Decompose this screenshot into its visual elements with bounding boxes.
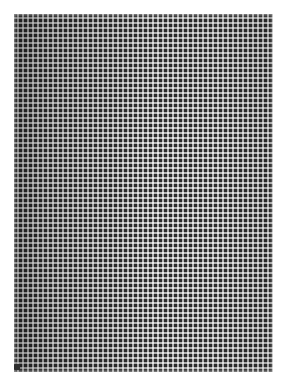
grid-mesh-pattern <box>14 14 273 372</box>
mesh-intersection-highlights <box>14 14 273 372</box>
page-canvas <box>0 0 287 386</box>
dark-cell-defect <box>14 364 20 370</box>
